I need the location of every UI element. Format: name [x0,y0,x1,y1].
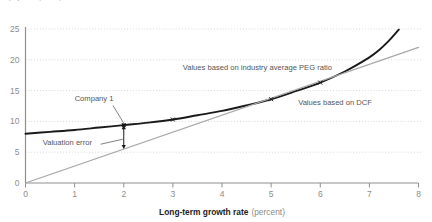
peg-label: Values based on industry average PEG rat… [183,63,332,72]
y-tick-label-10: 10 [10,116,20,126]
y-tick-group: 0510152025 [10,24,20,188]
clipped-figure-header: Equity value (dollars) [3,0,61,1]
y-tick-label-5: 5 [15,147,20,157]
marker-group [122,81,323,128]
x-tick-label-5: 5 [269,189,274,199]
annotation-group: Values based on industry average PEG rat… [43,63,373,147]
x-tick-label-8: 8 [416,189,421,199]
x-axis-title-unit: (percent) [251,207,285,217]
x-tick-group: 012345678 [23,183,421,199]
x-tick-label-4: 4 [220,189,225,199]
x-axis-title-bold: Long-term growth rate [159,207,249,217]
x-tick-label-7: 7 [367,189,372,199]
y-tick-label-15: 15 [10,86,20,96]
x-tick-label-6: 6 [318,189,323,199]
valuation-error-leader [101,139,123,144]
company-label: Company 1 [75,94,114,103]
valuation-chart: 012345678 0510152025 Values based on ind… [0,0,432,222]
x-tick-label-0: 0 [23,189,28,199]
y-tick-label-0: 0 [15,178,20,188]
chart-figure: Equity value (dollars) 012345678 0510152… [0,0,432,222]
y-tick-label-20: 20 [10,55,20,65]
company-1-leader [113,105,124,123]
dcf-label: Values based on DCF [298,98,372,107]
valuation-error-label: Valuation error [43,138,93,147]
gridlines-group [26,29,423,152]
x-tick-label-2: 2 [121,189,126,199]
x-tick-label-3: 3 [171,189,176,199]
x-tick-label-1: 1 [72,189,77,199]
y-tick-label-25: 25 [10,24,20,34]
